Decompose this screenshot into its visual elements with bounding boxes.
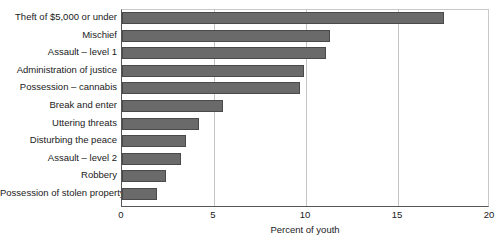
category-label: Assault – level 2 bbox=[0, 152, 117, 164]
bar bbox=[122, 65, 304, 77]
x-axis-title: Percent of youth bbox=[121, 224, 489, 235]
x-tick-label: 15 bbox=[392, 209, 403, 221]
bar bbox=[122, 30, 330, 42]
bar-row bbox=[122, 170, 166, 182]
bar-row bbox=[122, 65, 304, 77]
bar-row bbox=[122, 135, 186, 147]
x-tick-label: 5 bbox=[210, 209, 215, 221]
bar bbox=[122, 82, 300, 94]
x-tick-label: 20 bbox=[484, 209, 495, 221]
bar-row bbox=[122, 82, 300, 94]
bar bbox=[122, 153, 181, 165]
bar-row bbox=[122, 30, 330, 42]
bar-series bbox=[122, 10, 488, 206]
category-label: Assault – level 1 bbox=[0, 46, 117, 58]
category-label: Break and enter bbox=[0, 99, 117, 111]
category-label: Administration of justice bbox=[0, 64, 117, 76]
category-axis-labels: Theft of $5,000 or underMischiefAssault … bbox=[0, 9, 117, 207]
bar bbox=[122, 135, 186, 147]
bar bbox=[122, 118, 199, 130]
bar-row bbox=[122, 47, 326, 59]
bar-row bbox=[122, 118, 199, 130]
bar-row bbox=[122, 188, 157, 200]
bar bbox=[122, 12, 444, 24]
bar bbox=[122, 170, 166, 182]
bar-row bbox=[122, 100, 223, 112]
x-tick-label: 0 bbox=[118, 209, 123, 221]
bar-chart: Theft of $5,000 or underMischiefAssault … bbox=[0, 0, 499, 247]
x-axis-tick-labels: 05101520 bbox=[0, 209, 499, 223]
category-label: Possession of stolen property bbox=[0, 187, 117, 199]
plot-area bbox=[121, 9, 489, 207]
category-label: Uttering threats bbox=[0, 117, 117, 129]
x-tick-label: 10 bbox=[300, 209, 311, 221]
bar-row bbox=[122, 12, 444, 24]
category-label: Possession – cannabis bbox=[0, 81, 117, 93]
bar bbox=[122, 47, 326, 59]
category-label: Mischief bbox=[0, 29, 117, 41]
category-label: Robbery bbox=[0, 169, 117, 181]
bar bbox=[122, 188, 157, 200]
bar-row bbox=[122, 153, 181, 165]
category-label: Theft of $5,000 or under bbox=[0, 11, 117, 23]
category-label: Disturbing the peace bbox=[0, 134, 117, 146]
bar bbox=[122, 100, 223, 112]
